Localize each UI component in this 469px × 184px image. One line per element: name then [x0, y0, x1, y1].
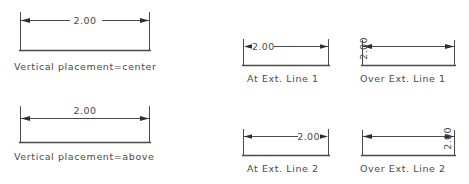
caption-over-ext-line-2: Over Ext. Line 2: [360, 164, 446, 174]
dimension-value-rotated: 2.00: [358, 37, 369, 60]
dimension-drawing-at-ext-line-2: 2.00: [240, 128, 332, 160]
dimension-value: 2.00: [74, 105, 97, 116]
dimension-drawing-vertical-above: 2.00: [14, 102, 156, 148]
dimension-drawing-vertical-center: 2.00: [14, 10, 156, 56]
arrowhead-left-icon: [244, 134, 252, 139]
dimension-value-rotated: 2.00: [442, 127, 453, 150]
caption-at-ext-line-2: At Ext. Line 2: [247, 164, 319, 174]
caption-over-ext-line-1: Over Ext. Line 1: [360, 74, 446, 84]
dimension-example-at-ext-line-1: 2.00: [240, 38, 332, 70]
dimension-value: 2.00: [297, 131, 320, 142]
caption-vertical-above: Vertical placement=above: [14, 152, 154, 162]
arrowhead-right-icon: [320, 134, 328, 139]
dimension-drawing-over-ext-line-2: 2.00: [358, 108, 458, 160]
arrowhead-right-icon: [320, 44, 328, 49]
dimension-example-over-ext-line-1: 2.00: [358, 18, 458, 70]
dimension-text-placement-figure: { "figure": { "title": "Dimension text p…: [0, 0, 469, 184]
arrowhead-left-icon: [363, 134, 372, 139]
dimension-example-at-ext-line-2: 2.00: [240, 128, 332, 160]
caption-vertical-center: Vertical placement=center: [14, 62, 157, 72]
dimension-drawing-over-ext-line-1: 2.00: [358, 18, 458, 70]
dimension-example-over-ext-line-2: 2.00: [358, 108, 458, 160]
dimension-value: 2.00: [252, 41, 275, 52]
dimension-value: 2.00: [74, 15, 97, 26]
arrowhead-right-icon: [445, 44, 454, 49]
caption-at-ext-line-1: At Ext. Line 1: [247, 74, 319, 84]
arrowhead-left-icon: [21, 18, 30, 23]
dimension-example-vertical-above: 2.00: [14, 102, 156, 148]
arrowhead-right-icon: [140, 18, 149, 23]
arrowhead-right-icon: [140, 116, 149, 121]
arrowhead-left-icon: [244, 44, 252, 49]
arrowhead-left-icon: [21, 116, 30, 121]
dimension-example-vertical-center: 2.00: [14, 10, 156, 56]
dimension-drawing-at-ext-line-1: 2.00: [240, 38, 332, 70]
